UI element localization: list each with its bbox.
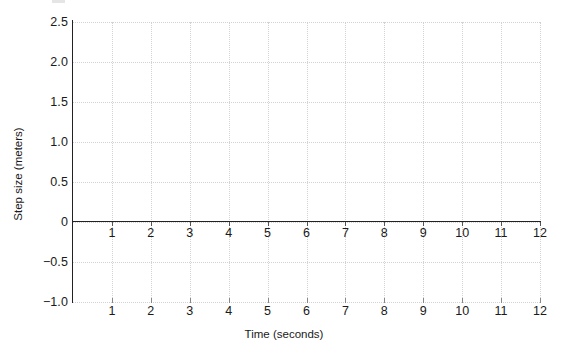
- x-axis-tick-mark-bottom: [268, 298, 269, 303]
- gridline-vertical: [540, 22, 541, 302]
- x-axis-tick-mark-bottom: [345, 298, 346, 303]
- x-axis-tick-mark-bottom: [540, 298, 541, 303]
- gridline-vertical: [307, 22, 308, 302]
- y-axis-tick-label: −0.5: [28, 256, 68, 268]
- x-axis-tick-label-bottom: 12: [520, 305, 560, 317]
- y-axis-tick-label: −1.0: [28, 296, 68, 308]
- x-axis-tick-label: 4: [209, 227, 249, 239]
- x-axis-tick-mark-bottom: [229, 298, 230, 303]
- y-axis-tick-label: 0.5: [28, 176, 68, 188]
- x-axis-tick-label-bottom: 9: [403, 305, 443, 317]
- x-axis-tick-mark-bottom: [462, 298, 463, 303]
- x-axis-tick-label: 6: [287, 227, 327, 239]
- x-axis-tick-label-bottom: 11: [481, 305, 521, 317]
- gridline-vertical: [501, 22, 502, 302]
- y-axis-line: [72, 20, 73, 303]
- x-axis-tick-mark-bottom: [307, 298, 308, 303]
- plot-area: [73, 22, 540, 302]
- gridline-vertical: [384, 22, 385, 302]
- gridline-vertical: [345, 22, 346, 302]
- gridline-vertical: [151, 22, 152, 302]
- x-axis-tick-label: 12: [520, 227, 560, 239]
- gridline-vertical: [268, 22, 269, 302]
- x-axis-tick-mark-bottom: [112, 298, 113, 303]
- gridline-vertical: [462, 22, 463, 302]
- gridline-vertical: [112, 22, 113, 302]
- x-axis-tick-label-bottom: 1: [92, 305, 132, 317]
- x-axis-tick-label: 5: [248, 227, 288, 239]
- x-axis-tick-label-bottom: 4: [209, 305, 249, 317]
- y-axis-title: Step size (meters): [12, 104, 24, 244]
- y-axis-tick-labels: 2.52.01.51.00.50−0.5−1.0: [24, 0, 68, 354]
- y-axis-tick-label: 0: [28, 216, 68, 228]
- x-axis-tick-label: 8: [364, 227, 404, 239]
- x-axis-tick-mark-bottom: [384, 298, 385, 303]
- x-axis-tick-mark-bottom: [151, 298, 152, 303]
- gridline-vertical: [423, 22, 424, 302]
- x-axis-tick-mark-bottom: [501, 298, 502, 303]
- x-axis-tick-label: 9: [403, 227, 443, 239]
- x-axis-tick-label-bottom: 3: [170, 305, 210, 317]
- gridline-vertical: [190, 22, 191, 302]
- x-axis-tick-label-bottom: 2: [131, 305, 171, 317]
- x-axis-tick-label-bottom: 6: [287, 305, 327, 317]
- x-axis-tick-mark-bottom: [190, 298, 191, 303]
- x-axis-tick-label: 10: [442, 227, 482, 239]
- x-axis-tick-label-bottom: 8: [364, 305, 404, 317]
- chart-figure: 2.52.01.51.00.50−0.5−1.0 123456789101112…: [0, 0, 568, 354]
- y-axis-tick-label: 2.5: [28, 16, 68, 28]
- y-axis-tick-label: 1.5: [28, 96, 68, 108]
- x-axis-tick-label-bottom: 10: [442, 305, 482, 317]
- y-axis-tick-label: 2.0: [28, 56, 68, 68]
- gridline-vertical: [229, 22, 230, 302]
- x-axis-tick-label-bottom: 7: [325, 305, 365, 317]
- x-axis-tick-label: 11: [481, 227, 521, 239]
- y-axis-tick-label: 1.0: [28, 136, 68, 148]
- x-axis-title: Time (seconds): [0, 328, 568, 340]
- x-axis-tick-label: 1: [92, 227, 132, 239]
- x-axis-tick-label: 2: [131, 227, 171, 239]
- x-axis-tick-label: 7: [325, 227, 365, 239]
- x-axis-tick-label-bottom: 5: [248, 305, 288, 317]
- x-axis-tick-mark-bottom: [423, 298, 424, 303]
- x-axis-tick-label: 3: [170, 227, 210, 239]
